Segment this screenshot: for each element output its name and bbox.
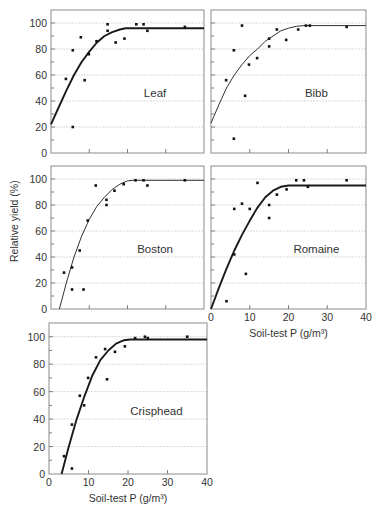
y-tick-label: 20 (35, 277, 47, 289)
data-point (134, 179, 137, 182)
data-point (233, 253, 236, 256)
data-point (233, 208, 236, 211)
data-point (241, 24, 244, 27)
data-point (114, 41, 117, 44)
y-axis-label: Relative yield (%) (8, 242, 28, 262)
data-point (256, 182, 259, 185)
x-tick-label: 20 (283, 311, 295, 323)
data-point (146, 337, 149, 340)
data-point (78, 249, 81, 252)
data-point (276, 28, 279, 31)
y-tick-label: 20 (33, 441, 45, 453)
data-point (95, 40, 98, 43)
data-point (80, 36, 83, 39)
x-tick-label: 10 (83, 476, 95, 488)
data-point (123, 37, 126, 40)
data-point (105, 199, 108, 202)
data-point (305, 24, 308, 27)
data-point (184, 179, 187, 182)
fit-curve (211, 186, 366, 310)
y-tick-label: 100 (29, 173, 47, 185)
data-point (71, 266, 74, 269)
fit-curve (51, 28, 204, 124)
panel-boston: 020406080100Boston (29, 166, 204, 315)
data-point (82, 288, 85, 291)
panel-title: Crisphead (130, 405, 182, 417)
y-tick-label: 100 (29, 17, 47, 29)
data-point (345, 26, 348, 29)
data-point (114, 351, 117, 354)
data-point (113, 189, 116, 192)
data-point (248, 208, 251, 211)
data-point (241, 202, 244, 205)
data-point (106, 378, 109, 381)
x-tick-label: 30 (162, 476, 174, 488)
panel-bibb: Bibb (211, 10, 366, 153)
data-point (65, 78, 68, 81)
data-point (134, 337, 137, 340)
fit-curve (59, 180, 204, 309)
x-axis-label: Soil-test P (g/m³) (89, 492, 168, 504)
x-tick-label: 0 (208, 311, 214, 323)
data-point (94, 184, 97, 187)
data-point (106, 30, 109, 33)
data-point (186, 335, 189, 338)
data-point (83, 79, 86, 82)
x-tick-label: 10 (244, 311, 256, 323)
data-point (146, 30, 149, 33)
data-point (233, 137, 236, 140)
panel-title: Leaf (144, 87, 167, 99)
y-tick-label: 40 (35, 95, 47, 107)
data-point (276, 193, 279, 196)
data-point (144, 335, 147, 338)
data-point (268, 204, 271, 207)
y-tick-label: 100 (27, 331, 45, 343)
panel-title: Bibb (305, 87, 328, 99)
y-tick-label: 40 (35, 251, 47, 263)
data-point (184, 26, 187, 29)
data-point (268, 45, 271, 48)
x-tick-label: 30 (321, 311, 333, 323)
data-point (285, 188, 288, 191)
y-tick-label: 60 (35, 69, 47, 81)
data-point (88, 53, 91, 56)
y-tick-label: 0 (41, 303, 47, 315)
data-point (295, 179, 298, 182)
y-tick-label: 40 (33, 413, 45, 425)
data-point (104, 348, 107, 351)
y-tick-label: 80 (35, 43, 47, 55)
panel-title: Romaine (293, 243, 339, 255)
data-point (72, 49, 75, 52)
y-tick-label: 60 (35, 225, 47, 237)
panel-leaf: 020406080100Leaf (29, 10, 204, 159)
data-point (86, 219, 89, 222)
data-point (95, 356, 98, 359)
data-point (135, 23, 138, 26)
panel-crisphead: 020406080100010203040Soil-test P (g/m³)C… (27, 323, 213, 504)
data-point (245, 273, 248, 276)
data-point (248, 63, 251, 66)
plot-frame (51, 166, 204, 309)
y-tick-label: 0 (39, 468, 45, 480)
data-point (268, 37, 271, 40)
data-point (146, 184, 149, 187)
data-point (122, 183, 125, 186)
data-point (225, 79, 228, 82)
x-tick-label: 0 (46, 476, 52, 488)
lettuce-yield-figure: 020406080100LeafBibb020406080100Boston01… (0, 0, 380, 514)
data-point (79, 394, 82, 397)
y-tick-label: 0 (41, 147, 47, 159)
data-point (142, 23, 145, 26)
data-point (285, 39, 288, 42)
data-point (63, 271, 66, 274)
data-point (83, 404, 86, 407)
x-tick-label: 20 (122, 476, 134, 488)
x-axis-label: Soil-test P (g/m³) (249, 327, 328, 339)
data-point (244, 95, 247, 98)
data-point (63, 455, 66, 458)
y-tick-label: 20 (35, 121, 47, 133)
data-point (303, 179, 306, 182)
data-point (124, 345, 127, 348)
data-point (233, 49, 236, 52)
data-point (225, 300, 228, 303)
